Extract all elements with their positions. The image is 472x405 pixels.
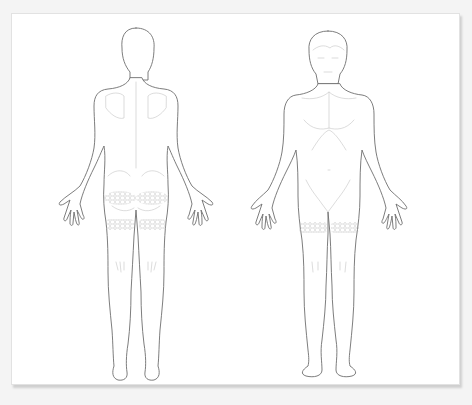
back-head bbox=[122, 28, 154, 80]
posterior-right-buttock-region bbox=[136, 191, 168, 205]
posterior-left-thigh-band bbox=[106, 219, 134, 230]
anterior-right-thigh-band bbox=[331, 222, 359, 233]
posterior-figure bbox=[59, 28, 213, 380]
anterior-left-thigh-band bbox=[299, 222, 327, 233]
posterior-right-thigh-band bbox=[139, 219, 166, 230]
front-head bbox=[309, 31, 347, 84]
posterior-left-buttock-region bbox=[104, 191, 136, 205]
anterior-figure bbox=[251, 31, 407, 377]
body-map-figures bbox=[0, 0, 472, 405]
